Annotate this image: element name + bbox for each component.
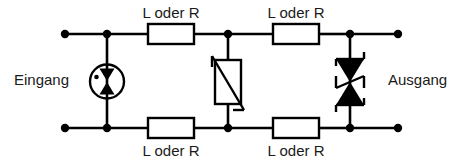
label-output: Ausgang — [388, 71, 447, 88]
series-element-top-left[interactable] — [148, 24, 194, 44]
bidirectional-tvs-diode[interactable] — [336, 34, 364, 128]
node-varistor-bottom — [224, 124, 232, 132]
series-element-bottom-left[interactable] — [148, 118, 194, 138]
circuit-canvas: L oder R L oder R L oder R L oder R Eing… — [0, 0, 463, 167]
node-tvs-top — [346, 30, 354, 38]
label-input: Eingang — [14, 71, 69, 88]
label-series-top-right: L oder R — [268, 4, 325, 21]
gdt-ignition-dot — [94, 75, 99, 80]
series-element-bottom-right[interactable] — [273, 118, 319, 138]
label-series-bottom-left: L oder R — [143, 142, 200, 159]
output-terminal-top[interactable] — [394, 30, 402, 38]
varistor[interactable] — [212, 34, 244, 128]
gas-discharge-tube[interactable] — [90, 34, 124, 128]
node-varistor-top — [224, 30, 232, 38]
label-series-bottom-right: L oder R — [268, 142, 325, 159]
input-terminal-top[interactable] — [61, 30, 69, 38]
output-terminal-bottom[interactable] — [394, 124, 402, 132]
label-series-top-left: L oder R — [143, 4, 200, 21]
node-gdt-top — [103, 30, 111, 38]
input-terminal-bottom[interactable] — [61, 124, 69, 132]
node-gdt-bottom — [103, 124, 111, 132]
circuit-diagram: L oder R L oder R L oder R L oder R Eing… — [0, 0, 463, 167]
node-tvs-bottom — [346, 124, 354, 132]
series-element-top-right[interactable] — [273, 24, 319, 44]
